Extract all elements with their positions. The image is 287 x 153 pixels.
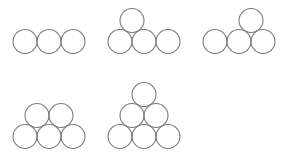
circle — [156, 125, 180, 149]
circle — [132, 30, 156, 54]
circle — [61, 30, 85, 54]
circle-group-five-two-over-three — [13, 104, 85, 149]
circle — [37, 30, 61, 54]
circle-group-six-triangle — [108, 83, 180, 149]
circle-packing-diagram — [0, 0, 287, 153]
circle-group-four-with-top-between-first-and-second — [108, 9, 180, 54]
circle — [156, 30, 180, 54]
circle — [25, 104, 49, 128]
circle — [239, 9, 263, 33]
circle — [120, 9, 144, 33]
circle — [13, 30, 37, 54]
circle — [108, 30, 132, 54]
circle — [120, 104, 144, 128]
circle — [37, 125, 61, 149]
circle — [13, 125, 37, 149]
circle — [132, 83, 156, 107]
circle — [61, 125, 85, 149]
circle — [144, 104, 168, 128]
circle — [203, 30, 227, 54]
circle — [132, 125, 156, 149]
circle-group-four-with-top-between-second-and-third — [203, 9, 275, 54]
circle — [251, 30, 275, 54]
circle — [227, 30, 251, 54]
circle-group-row-of-three — [13, 30, 85, 54]
circle — [108, 125, 132, 149]
circle — [49, 104, 73, 128]
